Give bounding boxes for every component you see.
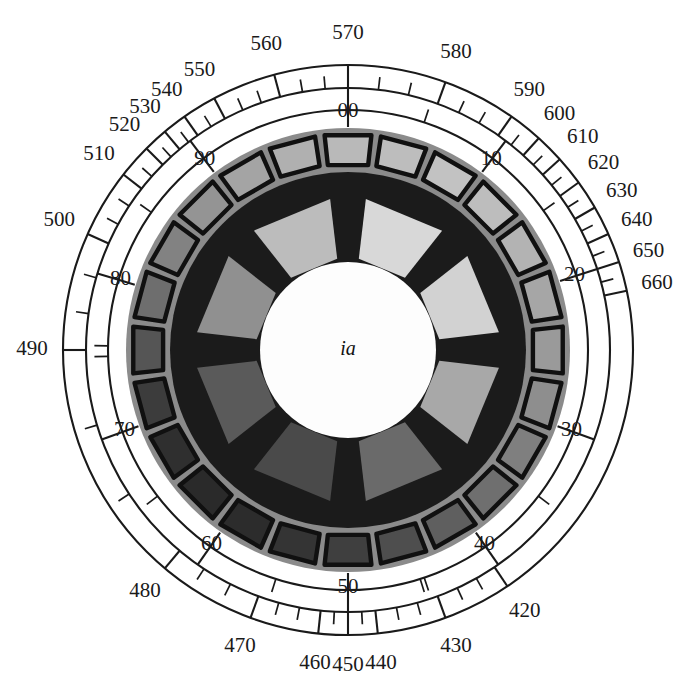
figure-canvas: 4204304404504604704804905005105205305405… — [0, 0, 695, 682]
outer-scale-label: 500 — [44, 207, 76, 231]
outer-scale-label: 450 — [332, 652, 364, 676]
outer-scale-label: 560 — [250, 31, 282, 55]
inner-scale-label: 10 — [481, 146, 502, 170]
inner-scale-label: 60 — [201, 531, 222, 555]
inner-scale-label: 30 — [561, 417, 582, 441]
outer-scale-label: 440 — [365, 650, 397, 674]
inner-scale-label: 70 — [114, 417, 135, 441]
outer-scale-label: 430 — [440, 633, 472, 657]
inner-scale-label: 90 — [194, 146, 215, 170]
outer-scale-label: 510 — [83, 141, 115, 165]
stator-slot — [533, 327, 563, 374]
outer-scale-minor-tick — [362, 612, 363, 625]
outer-scale-label: 480 — [129, 578, 161, 602]
outer-scale-label: 550 — [184, 57, 216, 81]
stator-slot — [325, 135, 372, 165]
outer-scale-label: 600 — [544, 101, 576, 125]
outer-scale-label: 420 — [509, 598, 541, 622]
hub-label: ia — [340, 337, 356, 359]
inner-scale-label: 50 — [338, 574, 359, 598]
outer-scale-label: 540 — [151, 77, 183, 101]
outer-scale-label: 490 — [16, 336, 48, 360]
outer-scale-label: 630 — [606, 178, 638, 202]
outer-scale-label: 570 — [332, 20, 364, 44]
machine-cross-section-diagram: 4204304404504604704804905005105205305405… — [0, 0, 695, 682]
outer-scale-label: 470 — [224, 633, 256, 657]
outer-scale-label: 660 — [641, 270, 673, 294]
inner-scale-label: 20 — [564, 262, 585, 286]
inner-scale-label: 80 — [110, 266, 131, 290]
inner-scale-label: 40 — [474, 531, 495, 555]
stator-slot — [325, 535, 372, 565]
outer-scale-label: 460 — [299, 650, 331, 674]
outer-scale-label: 640 — [621, 207, 653, 231]
inner-scale-label: 00 — [338, 98, 359, 122]
outer-scale-minor-tick — [324, 76, 325, 89]
outer-scale-label: 620 — [588, 150, 620, 174]
outer-scale-minor-tick — [334, 612, 335, 625]
stator-slot — [133, 327, 163, 374]
outer-scale-label: 610 — [567, 124, 599, 148]
outer-scale-label: 650 — [633, 238, 665, 262]
outer-scale-label: 590 — [514, 77, 546, 101]
outer-scale-label: 580 — [440, 39, 472, 63]
